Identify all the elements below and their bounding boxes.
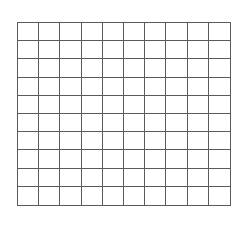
grid-cell	[188, 96, 209, 114]
grid-cell	[124, 23, 145, 41]
grid-cell	[82, 132, 103, 150]
grid-cell	[166, 114, 187, 132]
grid-cell	[103, 78, 124, 96]
grid-cell	[39, 187, 60, 205]
grid-cell	[145, 96, 166, 114]
grid-cell	[188, 78, 209, 96]
grid-cell	[18, 169, 39, 187]
grid-cell	[145, 23, 166, 41]
grid-cell	[82, 96, 103, 114]
grid-cell	[18, 114, 39, 132]
grid-cell	[18, 150, 39, 168]
grid-cell	[103, 41, 124, 59]
grid-cell	[18, 41, 39, 59]
grid-cell	[103, 169, 124, 187]
grid-cell	[124, 59, 145, 77]
grid-cell	[209, 132, 230, 150]
grid-cell	[39, 114, 60, 132]
grid-cell	[166, 59, 187, 77]
grid-cell	[209, 23, 230, 41]
grid-cell	[188, 150, 209, 168]
grid-cell	[60, 23, 81, 41]
grid-cell	[39, 78, 60, 96]
grid-cell	[103, 150, 124, 168]
grid-cell	[124, 187, 145, 205]
grid-cell	[145, 78, 166, 96]
grid-cell	[188, 132, 209, 150]
grid-cell	[39, 132, 60, 150]
grid-cell	[60, 169, 81, 187]
grid-cell	[124, 41, 145, 59]
grid-cell	[82, 187, 103, 205]
grid-cell	[103, 187, 124, 205]
grid-cell	[124, 114, 145, 132]
grid-cell	[60, 114, 81, 132]
grid-cell	[166, 78, 187, 96]
grid-cell	[124, 150, 145, 168]
grid-cell	[209, 96, 230, 114]
grid-cell	[60, 41, 81, 59]
grid-cell	[188, 59, 209, 77]
grid-cell	[124, 96, 145, 114]
grid-cell	[18, 59, 39, 77]
grid-cell	[209, 187, 230, 205]
grid-cell	[209, 114, 230, 132]
grid-cell	[166, 150, 187, 168]
grid-cell	[60, 78, 81, 96]
grid-cell	[209, 150, 230, 168]
grid-cell	[103, 96, 124, 114]
grid-cell	[82, 150, 103, 168]
grid-cell	[209, 169, 230, 187]
grid-cell	[166, 132, 187, 150]
grid-cell	[188, 114, 209, 132]
grid-cell	[166, 187, 187, 205]
grid-cell	[39, 169, 60, 187]
grid-cell	[60, 96, 81, 114]
grid-cell	[39, 41, 60, 59]
grid-cell	[124, 132, 145, 150]
grid-cell	[145, 169, 166, 187]
grid-cell	[60, 150, 81, 168]
grid-cell	[18, 78, 39, 96]
grid-cell	[103, 59, 124, 77]
grid-cell	[39, 59, 60, 77]
grid-cell	[39, 150, 60, 168]
grid-cell	[60, 59, 81, 77]
grid-cell	[18, 187, 39, 205]
grid-cell	[124, 169, 145, 187]
grid-cell	[82, 23, 103, 41]
grid-cell	[18, 96, 39, 114]
grid-cell	[39, 23, 60, 41]
grid-cell	[145, 41, 166, 59]
grid-cell	[188, 187, 209, 205]
grid-cell	[188, 41, 209, 59]
grid-cell	[145, 150, 166, 168]
grid-cell	[188, 169, 209, 187]
grid-cell	[166, 23, 187, 41]
grid-cell	[82, 41, 103, 59]
square-grid	[17, 22, 231, 206]
grid-cell	[18, 23, 39, 41]
grid-cell	[145, 114, 166, 132]
grid-cell	[145, 59, 166, 77]
grid-cell	[166, 169, 187, 187]
grid-cell	[145, 187, 166, 205]
grid-cell	[39, 96, 60, 114]
grid-cell	[124, 78, 145, 96]
grid-cell	[145, 132, 166, 150]
grid-cell	[60, 132, 81, 150]
grid-cell	[103, 132, 124, 150]
grid-cell	[18, 132, 39, 150]
grid-cell	[188, 23, 209, 41]
grid-cell	[209, 41, 230, 59]
grid-cell	[103, 23, 124, 41]
grid-cell	[82, 78, 103, 96]
grid-cell	[60, 187, 81, 205]
grid-cell	[166, 41, 187, 59]
grid-cell	[209, 59, 230, 77]
grid-cell	[209, 78, 230, 96]
grid-cell	[166, 96, 187, 114]
grid-cell	[82, 169, 103, 187]
grid-cell	[103, 114, 124, 132]
grid-cell	[82, 114, 103, 132]
